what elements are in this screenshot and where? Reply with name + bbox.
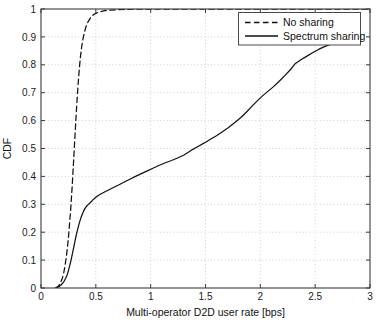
y-tick-label: 0.5 (22, 143, 36, 154)
y-tick-label: 0.6 (22, 115, 36, 126)
x-tick-label: 3 (367, 291, 373, 302)
legend-label-no-sharing: No sharing (283, 16, 334, 28)
x-tick-label: 0 (38, 291, 44, 302)
y-axis-title: CDF (1, 138, 13, 160)
y-tick-label: 0.7 (22, 87, 36, 98)
chart-canvas: 00.511.522.53 00.10.20.30.40.50.60.70.80… (0, 0, 380, 321)
legend[interactable]: No sharing Spectrum sharing (239, 13, 366, 46)
y-tick-label: 0.2 (22, 227, 36, 238)
y-tick-label: 0.3 (22, 199, 36, 210)
y-tick-label: 0.9 (22, 32, 36, 43)
legend-label-spectrum-sharing: Spectrum sharing (283, 30, 365, 42)
x-tick-label: 1 (148, 291, 154, 302)
y-tick-label: 0 (30, 283, 36, 294)
x-tick-label: 1.5 (199, 291, 213, 302)
x-tick-label: 0.5 (89, 291, 103, 302)
y-tick-label: 0.4 (22, 171, 36, 182)
x-axis-title: Multi-operator D2D user rate [bps] (126, 306, 285, 318)
x-tick-label: 2 (258, 291, 264, 302)
chart-background (0, 0, 380, 321)
y-tick-label: 1 (30, 4, 36, 15)
x-tick-label: 2.5 (308, 291, 322, 302)
cdf-chart-figure: 00.511.522.53 00.10.20.30.40.50.60.70.80… (0, 0, 380, 321)
y-tick-label: 0.1 (22, 255, 36, 266)
y-tick-label: 0.8 (22, 59, 36, 70)
